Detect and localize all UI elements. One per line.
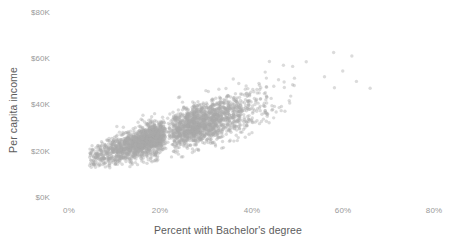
x-tick-label-40pct: 40% xyxy=(244,206,260,215)
x-axis-title: Percent with Bachelor's degree xyxy=(0,224,456,236)
y-tick-label-80k: $80K xyxy=(8,8,50,17)
x-tick-label-80pct: 80% xyxy=(426,206,442,215)
x-tick-label-60pct: 60% xyxy=(335,206,351,215)
scatter-plot-figure: $80K $60K $40K $20K $0K 0% 20% 40% 60% 8… xyxy=(0,0,456,246)
data-points-group xyxy=(88,51,372,170)
y-axis-title: Per capita income xyxy=(7,35,19,185)
x-tick-label-20pct: 20% xyxy=(152,206,168,215)
x-tick-label-0pct: 0% xyxy=(63,206,75,215)
y-tick-label-0k: $0K xyxy=(8,193,50,202)
